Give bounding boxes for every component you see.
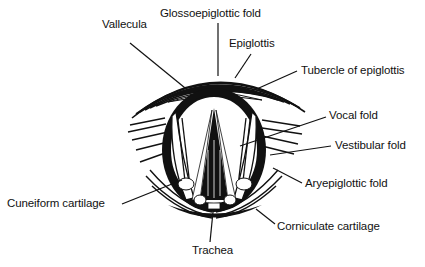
corniculate-right	[224, 195, 236, 205]
label-cuneiform-cartilage: Cuneiform cartilage	[7, 197, 105, 210]
interarytenoid	[208, 203, 220, 209]
label-glossoepiglottic-fold: Glossoepiglottic fold	[160, 7, 261, 20]
cuneiform-right	[236, 178, 252, 190]
label-corniculate-cartilage: Corniculate cartilage	[277, 220, 380, 233]
leader-line-corniculate-cartilage	[256, 209, 275, 224]
corniculate-left	[194, 195, 206, 205]
label-aryepiglottic-fold: Aryepiglottic fold	[305, 177, 388, 190]
leader-line-tubercle-of-epiglottis	[250, 71, 297, 92]
leader-line-epiglottis	[235, 54, 251, 78]
label-epiglottis: Epiglottis	[229, 37, 275, 50]
label-vallecula: Vallecula	[102, 18, 147, 31]
label-trachea: Trachea	[192, 244, 233, 257]
larynx-diagram: ValleculaGlossoepiglottic foldEpiglottis…	[0, 0, 425, 267]
cuneiform-left	[178, 178, 194, 190]
label-tubercle-of-epiglottis: Tubercle of epiglottis	[301, 64, 405, 77]
label-vestibular-fold: Vestibular fold	[335, 139, 406, 152]
label-vocal-fold: Vocal fold	[329, 109, 378, 122]
leader-line-vallecula	[130, 43, 190, 92]
